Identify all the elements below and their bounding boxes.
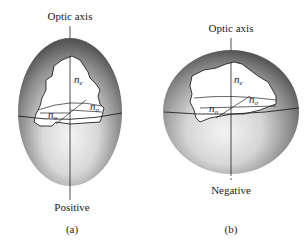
caption-a: (a) (66, 223, 79, 236)
optic-axis-label: Optic axis (48, 10, 93, 22)
negative-label: Negative (211, 184, 251, 196)
figure-b-negative-ellipsoid: ne no no Optic axis Negative (b) (163, 22, 299, 236)
positive-label: Positive (54, 201, 90, 213)
optic-axis-label: Optic axis (209, 22, 254, 34)
caption-b: (b) (225, 223, 238, 236)
figure-a-positive-ellipsoid: ne no no Optic axis Positive (a) (18, 10, 122, 236)
birefringence-diagram: ne no no Optic axis Positive (a) ne no n… (0, 0, 308, 246)
